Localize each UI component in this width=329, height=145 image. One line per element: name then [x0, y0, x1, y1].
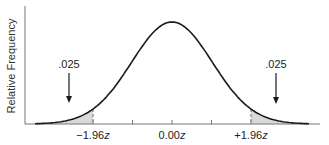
tick-label-zero: 0.00z [159, 129, 186, 141]
right-tail-label: .025 [265, 58, 286, 70]
normal-curve [35, 22, 309, 124]
tick-label-pos-1-96: +1.96z [234, 129, 268, 141]
left-tail-label: .025 [58, 58, 79, 70]
tick-label-neg-1-96: −1.96z [76, 129, 110, 141]
left-tail-arrow-head-icon [66, 96, 72, 103]
normal-distribution-chart: Relative Frequency .025 .025 −1.96z 0.00… [0, 0, 329, 145]
right-tail-arrow-head-icon [273, 97, 279, 104]
x-axis-ticks [93, 120, 251, 124]
y-axis-label: Relative Frequency [5, 18, 17, 113]
